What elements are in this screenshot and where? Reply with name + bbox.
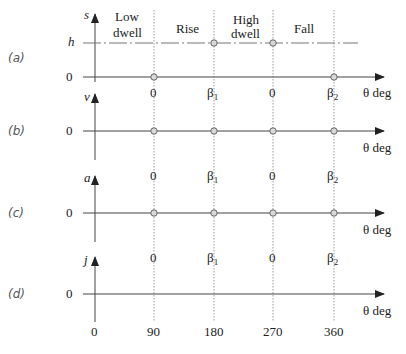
tick-label: 0 bbox=[269, 168, 276, 183]
region-high-dwell-line1: High bbox=[233, 12, 260, 27]
tick-label-beta1: β1 bbox=[207, 250, 218, 267]
point-marker bbox=[331, 210, 337, 216]
x-axis-label: θ deg bbox=[363, 140, 392, 155]
x-axis-label: θ deg bbox=[363, 85, 392, 100]
panel-tag-d: (d) bbox=[8, 287, 25, 301]
y-label-v: v bbox=[84, 89, 90, 104]
panel-a: (a) s h 0 0 β1 0 β2 θ deg bbox=[8, 7, 392, 102]
level-label-h: h bbox=[68, 34, 75, 49]
svaj-diagram: Low dwell Rise High dwell Fall (a) s h 0… bbox=[0, 0, 406, 354]
tick-label: 0 bbox=[150, 85, 157, 100]
region-low-dwell-line1: Low bbox=[115, 9, 139, 24]
zero-label-b: 0 bbox=[66, 123, 73, 138]
tick-label: 0 bbox=[269, 250, 276, 265]
point-marker bbox=[211, 210, 217, 216]
y-label-j: j bbox=[82, 252, 88, 267]
tick-label: 0 bbox=[150, 250, 157, 265]
guide-lines bbox=[154, 10, 334, 322]
point-marker bbox=[151, 74, 157, 80]
region-high-dwell-line2: dwell bbox=[231, 26, 260, 41]
point-marker bbox=[151, 128, 157, 134]
degree-tick-180: 180 bbox=[204, 324, 224, 339]
tick-label: 0 bbox=[150, 168, 157, 183]
tick-label-beta2: β2 bbox=[327, 168, 338, 185]
region-rise: Rise bbox=[176, 21, 199, 36]
zero-label-d: 0 bbox=[66, 286, 73, 301]
point-marker bbox=[211, 40, 217, 46]
point-marker bbox=[331, 74, 337, 80]
point-marker bbox=[151, 210, 157, 216]
region-fall: Fall bbox=[294, 21, 315, 36]
zero-label-c: 0 bbox=[66, 205, 73, 220]
degree-tick-270: 270 bbox=[263, 324, 283, 339]
zero-label-a: 0 bbox=[66, 69, 73, 84]
region-low-dwell-line2: dwell bbox=[113, 25, 142, 40]
degree-tick-90: 90 bbox=[147, 324, 160, 339]
panel-tag-a: (a) bbox=[8, 51, 25, 65]
degree-tick-360: 360 bbox=[324, 324, 344, 339]
tick-label-beta2: β2 bbox=[327, 250, 338, 267]
point-marker bbox=[331, 128, 337, 134]
panel-tag-b: (b) bbox=[8, 124, 25, 138]
degree-tick-0: 0 bbox=[91, 324, 98, 339]
point-marker bbox=[270, 40, 276, 46]
point-marker bbox=[270, 128, 276, 134]
x-axis-label: θ deg bbox=[363, 222, 392, 237]
y-label-s: s bbox=[84, 7, 89, 22]
x-axis-label: θ deg bbox=[363, 303, 392, 318]
tick-label-beta1: β1 bbox=[207, 85, 218, 102]
tick-label-beta2: β2 bbox=[327, 85, 338, 102]
tick-label: 0 bbox=[269, 85, 276, 100]
point-marker bbox=[211, 128, 217, 134]
panel-tag-c: (c) bbox=[8, 206, 24, 220]
y-label-a: a bbox=[84, 170, 91, 185]
point-marker bbox=[270, 210, 276, 216]
tick-label-beta1: β1 bbox=[207, 168, 218, 185]
